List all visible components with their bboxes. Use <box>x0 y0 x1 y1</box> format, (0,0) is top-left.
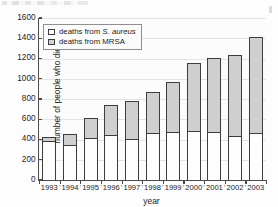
bar-segment-mrsa-2001 <box>207 58 221 132</box>
x-axis-label-1999: 1999 <box>165 184 182 192</box>
scan-artifact-corner <box>269 6 272 13</box>
bar-segment-s-aureus-1998 <box>146 133 160 180</box>
y-axis-tick-label: 200 <box>22 156 39 164</box>
y-axis-tick-label: 1600 <box>17 14 39 22</box>
bar-segment-mrsa-1996 <box>104 105 118 135</box>
bar-1994 <box>63 134 77 180</box>
bar-segment-s-aureus-1999 <box>166 132 180 180</box>
bar-2002 <box>228 55 242 180</box>
bar-1996 <box>104 105 118 180</box>
legend-label-mrsa: deaths from MRSA <box>59 38 125 46</box>
bar-segment-s-aureus-2003 <box>249 133 263 180</box>
x-axis-label-1997: 1997 <box>123 184 140 192</box>
legend-swatch-mrsa <box>48 39 55 45</box>
y-axis-tick-label: 600 <box>22 115 39 123</box>
x-axis-label-2000: 2000 <box>185 184 202 192</box>
legend-swatch-s-aureus <box>48 29 55 35</box>
x-axis-label-1994: 1994 <box>62 184 79 192</box>
x-axis-label-2001: 2001 <box>206 184 223 192</box>
bar-segment-s-aureus-2001 <box>207 132 221 180</box>
x-axis-label-separator: ' <box>59 184 60 192</box>
x-axis-label-1998: 1998 <box>144 184 161 192</box>
bar-segment-mrsa-1998 <box>146 92 160 134</box>
x-axis-label-separator: ' <box>224 184 225 192</box>
bar-1998 <box>146 92 160 180</box>
x-axis-label-1993: 1993 <box>41 184 58 192</box>
bar-1999 <box>166 82 180 180</box>
x-axis-label-1996: 1996 <box>103 184 120 192</box>
bar-segment-s-aureus-2000 <box>187 131 201 180</box>
x-axis-label-separator: ' <box>245 184 246 192</box>
bar-segment-s-aureus-2002 <box>228 136 242 180</box>
legend-item-s-aureus: deaths from S. aureus <box>48 28 136 36</box>
chart-legend: deaths from S. aureus deaths from MRSA <box>43 24 142 50</box>
bar-1997 <box>125 101 139 180</box>
bar-segment-s-aureus-1994 <box>63 145 77 180</box>
scan-artifact-header <box>2 1 88 5</box>
x-axis-label-separator: ' <box>183 184 184 192</box>
legend-label-s-aureus: deaths from S. aureus <box>59 28 136 36</box>
x-axis-label-2003: 2003 <box>247 184 264 192</box>
bar-segment-s-aureus-1995 <box>84 138 98 180</box>
bar-1995 <box>84 118 98 180</box>
x-axis-label-separator: ' <box>121 184 122 192</box>
y-axis-tick-label: 0 <box>31 176 39 184</box>
y-axis-tick-label: 1200 <box>17 54 39 62</box>
bar-segment-mrsa-2000 <box>187 63 201 131</box>
bar-2003 <box>249 37 263 180</box>
x-axis-label-separator: ' <box>162 184 163 192</box>
y-axis-tick-label: 1400 <box>17 34 39 42</box>
x-axis-label-2002: 2002 <box>227 184 244 192</box>
y-axis-tick-label: 1000 <box>17 75 39 83</box>
bar-segment-mrsa-2002 <box>228 55 242 135</box>
bar-segment-mrsa-1995 <box>84 118 98 138</box>
y-axis-tick-label: 800 <box>22 95 39 103</box>
y-axis-tick-label: 400 <box>22 135 39 143</box>
bar-2001 <box>207 58 221 181</box>
plot-area: 02004006008001000120014001600 19931994'1… <box>38 18 266 181</box>
bar-segment-mrsa-2003 <box>249 37 263 133</box>
bar-2000 <box>187 63 201 180</box>
bar-segment-mrsa-1999 <box>166 82 180 132</box>
bar-segment-s-aureus-1996 <box>104 135 118 180</box>
x-axis-label-separator: ' <box>203 184 204 192</box>
chart-figure: 02004006008001000120014001600 19931994'1… <box>0 0 278 207</box>
x-axis-label-separator: ' <box>141 184 142 192</box>
legend-item-mrsa: deaths from MRSA <box>48 38 136 46</box>
x-axis-label-separator: ' <box>80 184 81 192</box>
x-axis-label-1995: 1995 <box>82 184 99 192</box>
x-axis-title: year <box>38 196 265 206</box>
bar-segment-mrsa-1997 <box>125 101 139 139</box>
x-axis-tick <box>266 180 267 184</box>
bar-segment-mrsa-1994 <box>63 134 77 144</box>
x-axis-label-separator: ' <box>100 184 101 192</box>
bar-segment-s-aureus-1997 <box>125 139 139 180</box>
